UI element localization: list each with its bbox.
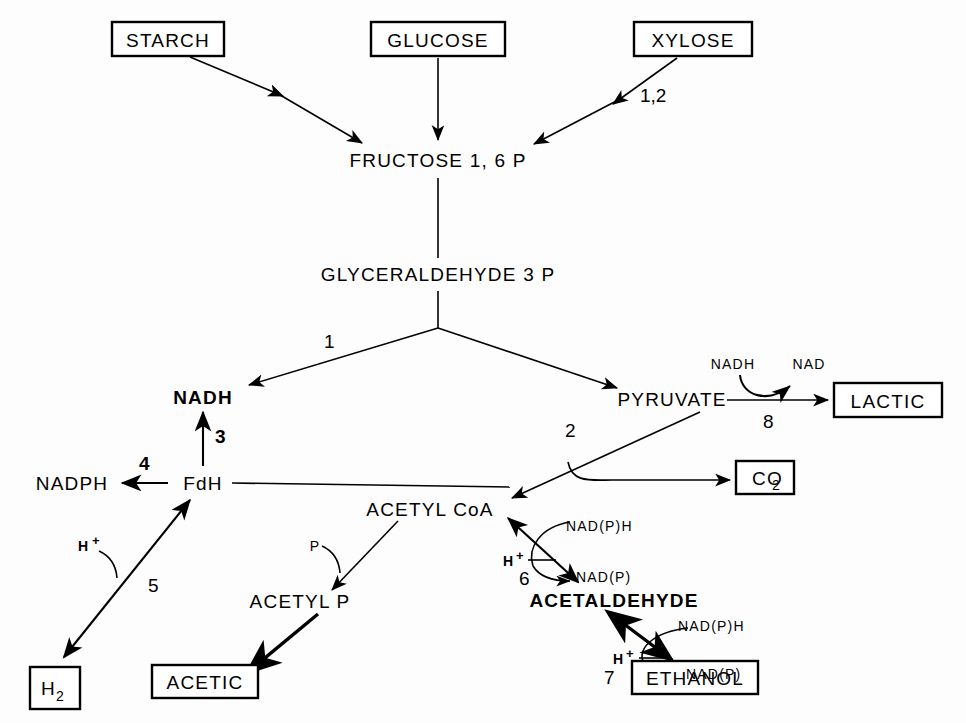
node-lactic-label: LACTIC: [851, 391, 926, 412]
step-label-1-2: 1,2: [640, 85, 666, 106]
node-glyceraldehyde-3-p: GLYCERALDEHYDE 3 P: [321, 264, 556, 285]
node-acetic-label: ACETIC: [167, 672, 244, 693]
cofactor-hplus-6-label: H: [503, 553, 514, 569]
pathway-diagram: STARCH GLUCOSE XYLOSE LACTIC CO 2 H 2: [0, 0, 966, 723]
cofactor-hplus-5: H +: [78, 533, 101, 554]
node-acetyl-p: ACETYL P: [250, 591, 351, 612]
cofactor-nadp-6: NAD(P): [576, 569, 631, 585]
cofactor-nadph-7: NAD(P)H: [678, 618, 745, 634]
cofactor-nadph-6: NAD(P)H: [566, 518, 633, 534]
node-acetic[interactable]: ACETIC: [152, 665, 258, 698]
cofactor-p-acetylp: P: [310, 538, 321, 554]
node-starch-label: STARCH: [126, 30, 210, 51]
node-xylose-label: XYLOSE: [651, 30, 734, 51]
node-nadh: NADH: [173, 387, 233, 408]
node-h2-subscript: 2: [56, 688, 65, 704]
cofactor-hplus-6: H +: [503, 548, 525, 569]
step-label-6: 6: [519, 568, 530, 589]
node-h2[interactable]: H 2: [30, 667, 80, 709]
cofactor-nad-lactic: NAD: [792, 356, 825, 372]
node-pyruvate: PYRUVATE: [617, 389, 726, 410]
node-co2[interactable]: CO 2: [736, 461, 794, 494]
node-h2-label: H: [41, 678, 56, 699]
step-label-2: 2: [565, 420, 576, 441]
step-label-1: 1: [324, 331, 335, 352]
node-co2-subscript: 2: [772, 477, 781, 493]
node-layer: STARCH GLUCOSE XYLOSE LACTIC CO 2 H 2: [0, 0, 966, 723]
cofactor-nadh-lactic: NADH: [711, 356, 755, 372]
step-label-7: 7: [604, 667, 615, 688]
node-lactic[interactable]: LACTIC: [834, 383, 942, 417]
cofactor-hplus-5-label: H: [78, 538, 89, 554]
step-label-8: 8: [763, 411, 774, 432]
cofactor-hplus-6-sup: +: [516, 548, 525, 563]
node-acetaldehyde: ACETALDEHYDE: [529, 590, 698, 611]
cofactor-hplus-7-label: H: [613, 651, 624, 667]
node-acetyl-coa: ACETYL CoA: [366, 499, 493, 520]
node-fructose-1-6-p: FRUCTOSE 1, 6 P: [349, 150, 526, 171]
node-xylose[interactable]: XYLOSE: [634, 22, 752, 56]
step-label-4: 4: [139, 453, 150, 474]
cofactor-nadp-7: NAD(P): [686, 666, 741, 682]
step-label-3: 3: [215, 426, 226, 447]
node-starch[interactable]: STARCH: [112, 22, 224, 56]
node-nadph: NADPH: [36, 473, 109, 494]
cofactor-hplus-5-sup: +: [92, 533, 101, 548]
node-glucose[interactable]: GLUCOSE: [371, 22, 505, 56]
node-fdh: FdH: [183, 473, 223, 494]
cofactor-hplus-7-sup: +: [626, 646, 635, 661]
step-label-5: 5: [148, 575, 159, 596]
node-glucose-label: GLUCOSE: [387, 30, 488, 51]
